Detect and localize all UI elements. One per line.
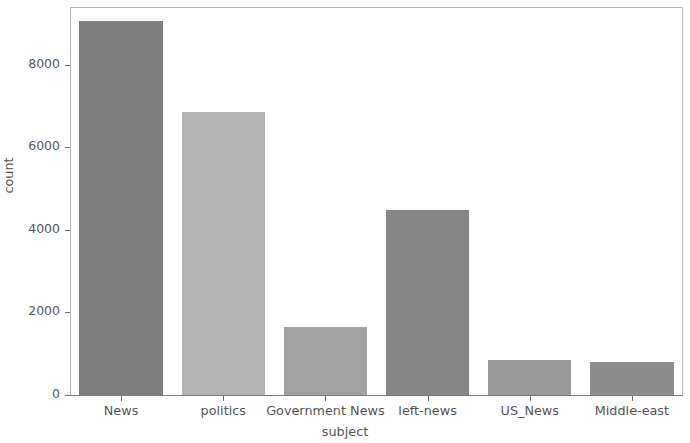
x-tick-mark bbox=[428, 396, 429, 401]
bars-layer bbox=[0, 0, 690, 396]
x-tick-mark bbox=[121, 396, 122, 401]
bar bbox=[386, 210, 469, 395]
bar bbox=[284, 327, 367, 395]
x-axis-title: subject bbox=[0, 424, 690, 439]
bar bbox=[590, 362, 673, 395]
x-tick-label: News bbox=[104, 404, 139, 418]
bar bbox=[182, 112, 265, 395]
x-axis-line bbox=[70, 395, 683, 396]
bar bbox=[79, 21, 162, 395]
x-tick-label: left-news bbox=[398, 404, 456, 418]
bar bbox=[488, 360, 571, 395]
x-tick-label: Government News bbox=[266, 404, 384, 418]
x-tick-mark bbox=[632, 396, 633, 401]
x-tick-label: US_News bbox=[501, 404, 559, 418]
x-tick-label: politics bbox=[201, 404, 246, 418]
x-tick-mark bbox=[223, 396, 224, 401]
x-tick-mark bbox=[325, 396, 326, 401]
x-tick-label: Middle-east bbox=[595, 404, 669, 418]
x-tick-mark bbox=[530, 396, 531, 401]
y-axis-title: count bbox=[1, 141, 16, 211]
bar-chart-figure: 02000400060008000 NewspoliticsGovernment… bbox=[0, 0, 690, 443]
